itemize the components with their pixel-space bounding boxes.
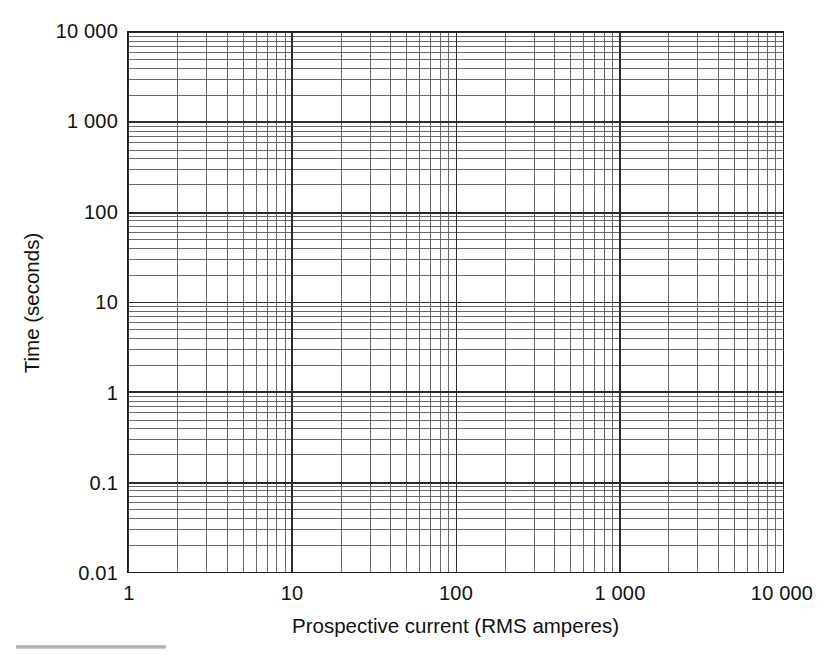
y-tick-label: 100: [84, 202, 118, 222]
y-tick-label: 1: [107, 383, 118, 403]
x-tick-label: 10 000: [751, 583, 813, 603]
x-tick-label: 1 000: [594, 583, 645, 603]
x-tick-label: 10: [281, 583, 304, 603]
chart-page: 10 000 1 000 100 10 1 0.1 0.01 1 10 100 …: [0, 0, 839, 661]
scan-artifact-bar: [16, 645, 166, 649]
minor-horizontal-gridlines: [128, 36, 783, 545]
y-tick-label: 0.01: [78, 563, 118, 583]
y-tick-label: 10: [95, 292, 118, 312]
x-axis-tick-labels: 1 10 100 1 000 10 000: [0, 583, 839, 611]
x-tick-label: 1: [123, 583, 134, 603]
y-tick-label: 0.1: [90, 473, 118, 493]
y-axis-title: Time (seconds): [21, 163, 43, 443]
y-axis-tick-labels: 10 000 1 000 100 10 1 0.1 0.01: [0, 0, 118, 661]
x-axis-title: Prospective current (RMS amperes): [127, 615, 784, 637]
plot-area: [127, 31, 784, 573]
y-tick-label: 10 000: [56, 21, 118, 41]
log-log-grid: [128, 32, 783, 572]
x-tick-label: 100: [439, 583, 473, 603]
y-tick-label: 1 000: [67, 111, 118, 131]
